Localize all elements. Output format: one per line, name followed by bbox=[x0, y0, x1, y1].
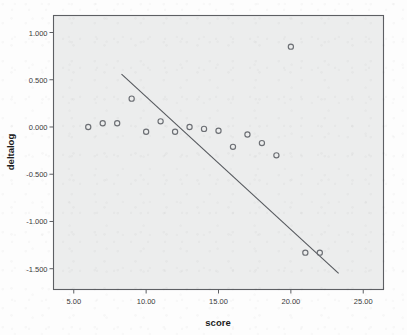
x-tick-label: 5.00 bbox=[66, 297, 81, 306]
y-axis-ticks: 1.0000.5000.000-0.500-1.000-1.500 bbox=[26, 29, 53, 274]
x-tick-label: 20.00 bbox=[281, 297, 300, 306]
x-axis-ticks: 5.0010.0015.0020.0025.00 bbox=[66, 290, 372, 306]
y-tick-label: -1.500 bbox=[26, 265, 47, 274]
plot-frame bbox=[54, 16, 384, 290]
y-tick-label: -1.000 bbox=[26, 217, 47, 226]
scatter-plot-figure: 5.0010.0015.0020.0025.00 1.0000.5000.000… bbox=[0, 0, 407, 335]
y-tick-label: 1.000 bbox=[29, 29, 48, 38]
plot-canvas: 5.0010.0015.0020.0025.00 1.0000.5000.000… bbox=[0, 0, 407, 335]
y-axis-title: deltalog bbox=[5, 134, 16, 171]
x-tick-label: 10.00 bbox=[137, 297, 156, 306]
x-tick-label: 25.00 bbox=[354, 297, 373, 306]
x-axis-title: score bbox=[205, 317, 230, 328]
plot-area bbox=[54, 16, 384, 290]
y-tick-label: -0.500 bbox=[26, 170, 47, 179]
x-tick-label: 15.00 bbox=[209, 297, 228, 306]
y-tick-label: 0.500 bbox=[29, 76, 48, 85]
y-tick-label: 0.000 bbox=[29, 123, 48, 132]
